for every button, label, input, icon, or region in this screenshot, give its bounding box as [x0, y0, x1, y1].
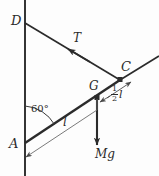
tension-label: T [73, 32, 81, 44]
half-length-label: 1 2 l [111, 85, 123, 103]
weight-label: Mg [95, 148, 115, 160]
point-marker-C [118, 77, 123, 82]
length-label: l [63, 116, 67, 128]
point-label-D: D [11, 14, 21, 27]
half-length-symbol: l [119, 89, 123, 100]
fraction-numerator: 1 [111, 85, 118, 93]
angle-label: 60° [31, 104, 49, 114]
point-label-A: A [9, 137, 18, 150]
point-label-C: C [121, 60, 131, 73]
dimension-arrow-half-l-left [100, 96, 110, 102]
tension-arrow [68, 49, 90, 62]
fraction-denominator: 2 [111, 95, 118, 103]
fraction-one-half: 1 2 [111, 85, 118, 103]
dimension-line-l [26, 110, 97, 157]
point-label-G: G [89, 80, 99, 92]
diagram-canvas [0, 0, 159, 176]
physics-diagram: D C A G T Mg l 60° 1 2 l [0, 0, 159, 176]
